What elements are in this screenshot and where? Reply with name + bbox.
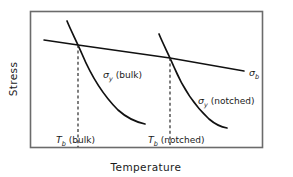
yield-stress-bulk-text: (bulk): [113, 70, 142, 80]
transition-notched-text: (notched): [158, 135, 205, 145]
yield-stress-bulk-label: σy (bulk): [103, 69, 142, 83]
transition-bulk-text: (bulk): [66, 135, 95, 145]
fracture-stress-line: [44, 40, 244, 71]
plot-frame: [31, 12, 263, 148]
y-axis-title: Stress: [7, 62, 19, 97]
figure-container: σb σy (bulk) σy (notched) Tb (bulk) Tb (…: [0, 0, 293, 177]
fracture-stress-subscript: b: [255, 73, 259, 81]
x-tick-label-transition-notched: Tb (notched): [148, 134, 204, 148]
yield-stress-notched-label: σy (notched): [198, 95, 254, 109]
x-tick-label-transition-bulk: Tb (bulk): [56, 134, 95, 148]
x-axis-title: Temperature: [110, 161, 182, 173]
fracture-stress-label: σb: [249, 67, 259, 81]
yield-stress-notched-text: (notched): [208, 96, 255, 106]
yield-stress-notched-curve: [159, 34, 227, 128]
